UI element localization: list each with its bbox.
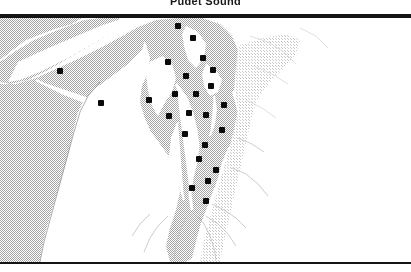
map-marker[interactable] (221, 102, 227, 108)
map-marker[interactable] (193, 91, 199, 97)
map-marker[interactable] (208, 83, 214, 89)
figure-title-fragment: Puget Sound (0, 0, 411, 5)
map-marker[interactable] (202, 142, 208, 148)
map-marker[interactable] (203, 198, 209, 204)
map-marker[interactable] (165, 59, 171, 65)
map-marker[interactable] (183, 73, 189, 79)
map-plate (0, 18, 411, 262)
map-marker[interactable] (166, 113, 172, 119)
map-marker[interactable] (203, 112, 209, 118)
map-marker[interactable] (219, 127, 225, 133)
map-marker[interactable] (196, 156, 202, 162)
map-marker[interactable] (189, 185, 195, 191)
map-marker[interactable] (205, 178, 211, 184)
map-marker[interactable] (175, 23, 181, 29)
figure-title-text: Puget Sound (170, 0, 241, 5)
map-marker[interactable] (200, 55, 206, 61)
map-marker[interactable] (182, 131, 188, 137)
map-marker[interactable] (210, 67, 216, 73)
bottom-rule (0, 262, 411, 264)
map-marker[interactable] (146, 97, 152, 103)
map-marker[interactable] (213, 167, 219, 173)
map-marker[interactable] (98, 100, 104, 106)
map-marker[interactable] (172, 91, 178, 97)
map-figure: Puget Sound (0, 0, 411, 272)
map-marker[interactable] (186, 110, 192, 116)
map-marker[interactable] (57, 68, 63, 74)
map-marker[interactable] (190, 35, 196, 41)
